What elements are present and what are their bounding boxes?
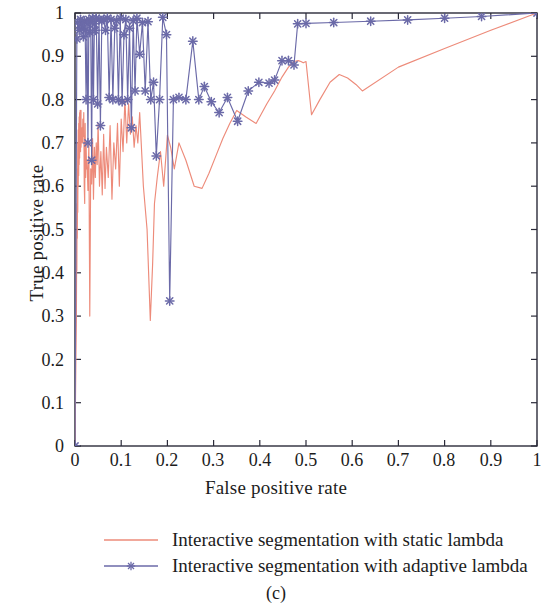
star-icon	[189, 37, 198, 46]
star-icon	[144, 17, 153, 26]
chart-legend: Interactive segmentation with static lam…	[0, 527, 552, 579]
y-axis-title: True positive rate	[26, 113, 48, 353]
star-icon	[255, 78, 264, 87]
star-icon	[123, 95, 132, 104]
star-icon	[207, 97, 216, 106]
roc-figure: 1 0.9 0.8 0.7 0.6 0.5 0.4 0.3 0.2 0.1 0 …	[0, 0, 552, 609]
series-adaptive-lambda-markers	[71, 9, 542, 451]
x-axis-title: False positive rate	[0, 477, 552, 499]
x-tick-label: 1	[514, 450, 552, 471]
star-icon	[84, 139, 93, 148]
star-icon	[403, 16, 412, 25]
star-icon	[71, 442, 80, 451]
star-icon	[293, 20, 302, 29]
star-icon	[101, 26, 110, 35]
star-icon	[533, 9, 542, 18]
star-icon	[127, 123, 136, 132]
figure-caption: (c)	[0, 583, 552, 604]
x-tick-label: 0.3	[190, 450, 236, 471]
star-icon	[149, 78, 158, 87]
star-icon	[96, 121, 105, 130]
y-tick-label: 0.9	[18, 46, 64, 66]
x-tick-label: 0.6	[329, 450, 375, 471]
star-icon	[141, 87, 150, 96]
star-icon	[131, 87, 140, 96]
legend-label-adaptive-lambda: Interactive segmentation with adaptive l…	[172, 555, 528, 577]
star-icon	[244, 87, 253, 96]
x-tick-label: 0.4	[237, 450, 283, 471]
y-tick-label: 1	[18, 3, 64, 23]
star-icon	[233, 117, 242, 126]
star-icon	[270, 76, 279, 85]
star-icon	[290, 61, 299, 70]
star-icon	[175, 93, 184, 102]
star-icon	[133, 14, 142, 23]
star-icon	[195, 95, 204, 104]
star-icon	[91, 26, 100, 35]
legend-swatch-adaptive-lambda	[102, 556, 160, 576]
legend-item-adaptive-lambda: Interactive segmentation with adaptive l…	[0, 553, 552, 579]
star-icon	[155, 95, 164, 104]
star-icon	[73, 35, 82, 44]
star-icon	[165, 297, 174, 306]
y-tick-label: 0.8	[18, 90, 64, 110]
x-tick-label: 0.2	[144, 450, 190, 471]
star-icon	[284, 56, 293, 65]
x-tick-label: 0	[52, 450, 98, 471]
legend-swatch-static-lambda	[102, 530, 160, 550]
y-tick-label: 0.2	[18, 350, 64, 370]
star-icon	[146, 95, 155, 104]
star-icon	[329, 18, 338, 27]
star-icon	[93, 100, 102, 109]
x-tick-label: 0.7	[375, 450, 421, 471]
x-tick-label: 0.9	[468, 450, 514, 471]
series-adaptive-lambda-line	[75, 13, 537, 446]
star-icon	[152, 152, 161, 161]
star-icon	[127, 562, 135, 570]
star-icon	[366, 17, 375, 26]
star-icon	[302, 19, 311, 28]
chart-plot-area: 1 0.9 0.8 0.7 0.6 0.5 0.4 0.3 0.2 0.1 0 …	[0, 0, 552, 500]
star-icon	[162, 30, 171, 39]
star-icon	[135, 50, 144, 59]
star-icon	[158, 13, 167, 22]
star-icon	[223, 93, 232, 102]
star-icon	[200, 82, 209, 91]
star-icon	[215, 108, 224, 117]
star-icon	[477, 12, 486, 21]
y-tick-label: 0.1	[18, 393, 64, 413]
legend-label-static-lambda: Interactive segmentation with static lam…	[172, 529, 503, 551]
roc-chart-svg	[0, 0, 552, 500]
star-icon	[122, 15, 131, 24]
star-icon	[110, 24, 119, 33]
star-icon	[87, 156, 96, 165]
star-icon	[182, 95, 191, 104]
x-tick-label: 0.5	[283, 450, 329, 471]
legend-item-static-lambda: Interactive segmentation with static lam…	[0, 527, 552, 553]
x-tick-label: 0.1	[98, 450, 144, 471]
star-icon	[440, 14, 449, 23]
x-tick-label: 0.8	[421, 450, 467, 471]
star-icon	[79, 33, 88, 42]
